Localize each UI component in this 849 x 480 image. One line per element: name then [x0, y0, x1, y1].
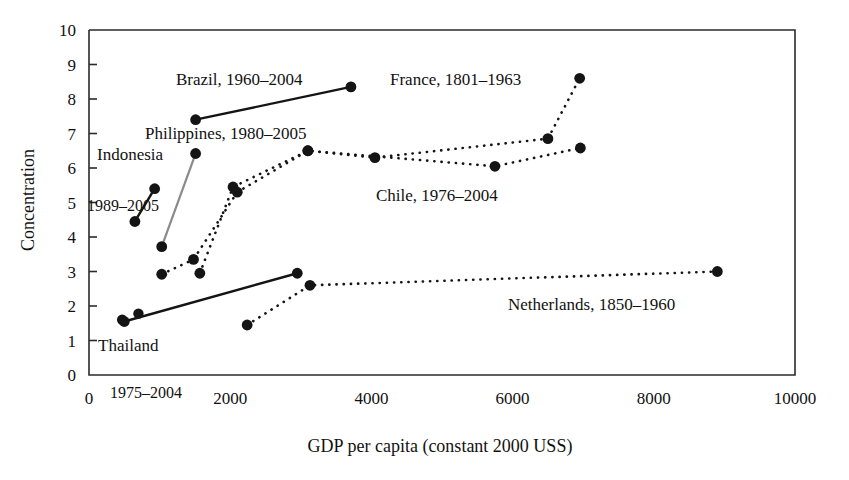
series-line [162, 154, 196, 247]
extra-points-layer [117, 308, 144, 325]
scatter-plot: 012345678910 0200040006000800010000 Conc… [0, 0, 849, 480]
y-tick-label: 1 [68, 332, 77, 351]
data-point [156, 241, 167, 252]
data-point [242, 320, 253, 331]
y-axis-title: Concentration [18, 149, 38, 251]
data-point [490, 161, 501, 172]
annotation-indonesia: Indonesia [97, 145, 164, 164]
series-line [196, 87, 351, 120]
data-point [302, 145, 313, 156]
data-point [129, 216, 140, 227]
data-point [346, 82, 357, 93]
series-4 [156, 143, 585, 280]
data-point [370, 152, 381, 163]
y-tick-label: 10 [59, 21, 76, 40]
data-point [156, 269, 167, 280]
data-point [292, 268, 303, 279]
data-point [194, 268, 205, 279]
y-tick-label: 5 [68, 194, 77, 213]
annotation-indonesia-years: 1989–2005 [87, 197, 159, 214]
annotation-philippines: Philippines, 1980–2005 [145, 124, 307, 143]
x-axis-title: GDP per capita (constant 2000 USS) [308, 436, 573, 457]
series-6 [119, 268, 303, 327]
data-point [188, 254, 199, 265]
data-point [149, 183, 160, 194]
series-line [162, 148, 581, 274]
data-point [232, 187, 243, 198]
data-point [712, 266, 723, 277]
y-tick-label: 0 [68, 366, 77, 385]
x-tick-label: 6000 [496, 389, 530, 408]
data-point [305, 280, 316, 291]
x-tick-label: 10000 [774, 389, 817, 408]
y-tick-label: 4 [68, 228, 77, 247]
data-point [133, 308, 143, 318]
x-tick-label: 0 [85, 389, 94, 408]
y-tick-label: 7 [68, 125, 77, 144]
series-1 [194, 73, 585, 279]
data-point [574, 73, 585, 84]
data-point [543, 133, 554, 144]
annotation-chile: Chile, 1976–2004 [376, 186, 498, 205]
data-point [575, 143, 586, 154]
y-tick-label: 6 [68, 159, 77, 178]
y-tick-label: 9 [68, 56, 77, 75]
y-tick-label: 2 [68, 297, 77, 316]
data-point [117, 315, 127, 325]
x-axis-ticks: 0200040006000800010000 [85, 389, 817, 408]
x-tick-label: 2000 [213, 389, 247, 408]
annotation-brazil: Brazil, 1960–2004 [176, 70, 303, 89]
x-tick-label: 8000 [637, 389, 671, 408]
y-tick-label: 3 [68, 263, 77, 282]
x-tick-label: 4000 [354, 389, 388, 408]
chart-figure: 012345678910 0200040006000800010000 Conc… [0, 0, 849, 480]
annotation-thailand: Thailand [98, 336, 159, 355]
annotation-france: France, 1801–1963 [390, 70, 521, 89]
series-line [124, 273, 297, 321]
y-tick-label: 8 [68, 90, 77, 109]
data-point [190, 148, 201, 159]
annotation-netherlands: Netherlands, 1850–1960 [508, 295, 675, 314]
annotation-thailand-years: 1975–2004 [110, 384, 182, 401]
